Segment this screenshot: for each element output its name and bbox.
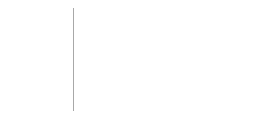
bar-chart — [0, 0, 273, 120]
bar-rows-container — [0, 8, 273, 111]
